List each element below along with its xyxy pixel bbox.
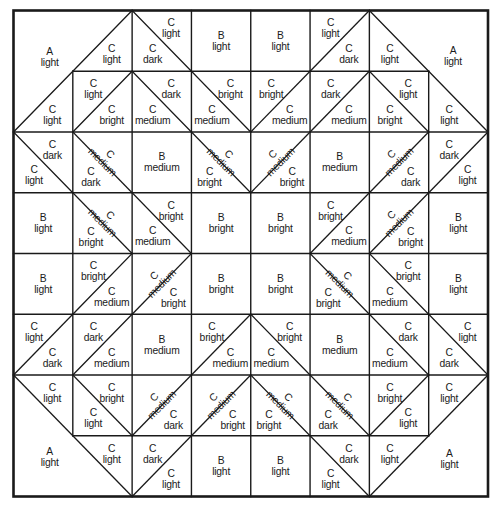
quilt-block-diagram: AlightAlightAlightAlightClightClightCdar… <box>0 0 497 512</box>
quilt-diagram-page: AlightAlightAlightAlightClightClightCdar… <box>0 0 497 512</box>
